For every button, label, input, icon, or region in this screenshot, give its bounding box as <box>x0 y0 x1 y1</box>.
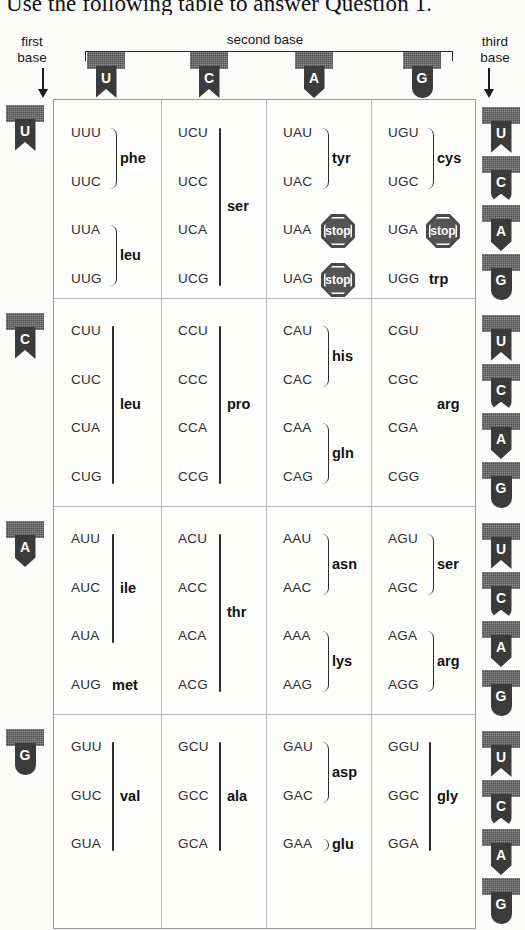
stop-codon-sign: stop <box>426 214 460 248</box>
down-arrow-icon <box>42 68 44 90</box>
codon-CAG: CAG <box>283 469 313 484</box>
first-base-marker-U: U <box>6 105 44 151</box>
ribbon-body: G <box>491 268 512 300</box>
codon-group-line <box>112 326 114 484</box>
ribbon-base-letter: A <box>496 432 506 446</box>
ribbon-body: C <box>491 586 512 618</box>
ribbon-base-letter: A <box>309 71 319 85</box>
third-base-marker-0-C: C <box>482 156 520 202</box>
third-base-marker-3-A: A <box>482 829 520 875</box>
codon-CGG: CGG <box>388 469 419 484</box>
ribbon-base-letter: G <box>496 481 507 495</box>
ribbon-base-letter: G <box>496 897 507 911</box>
codon-AUC: AUC <box>71 580 100 595</box>
ribbon-base-letter: A <box>496 224 506 238</box>
codon-GCU: GCU <box>178 739 209 754</box>
third-base-marker-1-G: G <box>482 462 520 508</box>
codon-UGC: UGC <box>388 174 419 189</box>
codon-group-brace <box>319 742 329 803</box>
codon-UUU: UUU <box>71 125 101 140</box>
amino-acid-val: val <box>120 788 140 804</box>
codon-UAA: UAA <box>283 222 311 237</box>
ribbon-base-letter: C <box>496 383 506 397</box>
codon-CCC: CCC <box>178 372 208 387</box>
codon-CAA: CAA <box>283 420 311 435</box>
third-base-marker-2-A: A <box>482 621 520 667</box>
stop-codon-sign: stop <box>321 214 355 248</box>
ribbon-body: G <box>412 66 433 98</box>
codon-CGA: CGA <box>388 420 418 435</box>
ribbon-body: C <box>491 170 512 202</box>
codon-group-line <box>112 534 114 643</box>
ribbon-body: A <box>304 66 325 98</box>
second-base-marker-A: A <box>295 52 333 98</box>
codon-group-brace <box>319 423 329 484</box>
ribbon-base-letter: U <box>496 542 506 556</box>
ribbon-base-letter: A <box>20 540 30 554</box>
ribbon-body: U <box>491 329 512 361</box>
third-base-label-line2: base <box>466 50 524 66</box>
ribbon-body: U <box>96 66 117 98</box>
codon-cell-GA: GAUGACGAAaspglu <box>266 714 371 930</box>
codon-UAG: UAG <box>283 271 313 286</box>
codon-cell-CA: CAUCACCAACAGhisgln <box>266 298 371 506</box>
ribbon-body: C <box>199 66 220 98</box>
first-base-marker-A: A <box>6 521 44 567</box>
codon-GAU: GAU <box>283 739 313 754</box>
third-base-marker-1-C: C <box>482 364 520 410</box>
stop-sign-inner: stop <box>324 217 352 245</box>
second-base-marker-U: U <box>87 52 125 98</box>
codon-GGA: GGA <box>388 836 419 851</box>
codon-AUA: AUA <box>71 628 99 643</box>
codon-GGU: GGU <box>388 739 419 754</box>
third-base-marker-2-C: C <box>482 572 520 618</box>
second-base-marker-G: G <box>403 52 441 98</box>
amino-acid-asn: asn <box>332 556 357 572</box>
ribbon-base-letter: G <box>417 71 428 85</box>
ribbon-body: A <box>491 635 512 667</box>
ribbon-base-letter: C <box>496 799 506 813</box>
codon-CUU: CUU <box>71 323 101 338</box>
codon-UCA: UCA <box>178 222 207 237</box>
amino-acid-arg: arg <box>437 653 460 669</box>
codon-UAU: UAU <box>283 125 312 140</box>
codon-cell-AG: AGUAGCAGAAGGserarg <box>371 506 477 714</box>
codon-cell-AU: AUUAUCAUAAUGilemet <box>54 506 161 714</box>
codon-group-brace <box>424 534 434 595</box>
ribbon-body: U <box>491 745 512 777</box>
down-arrow-icon <box>488 68 490 90</box>
codon-group-brace <box>107 225 117 286</box>
amino-acid-leu: leu <box>120 247 141 263</box>
codon-cell-CG: CGUCGCCGACGGarg <box>371 298 477 506</box>
ribbon-base-letter: G <box>20 748 31 762</box>
codon-cell-AA: AAUAACAAAAAGasnlys <box>266 506 371 714</box>
codon-UGG: UGG <box>388 271 419 286</box>
ribbon-base-letter: G <box>496 273 507 287</box>
third-base-marker-0-U: U <box>482 107 520 153</box>
ribbon-body: U <box>491 537 512 569</box>
amino-acid-ser: ser <box>437 556 459 572</box>
amino-acid-arg: arg <box>437 396 460 412</box>
codon-CCU: CCU <box>178 323 208 338</box>
codon-CGC: CGC <box>388 372 419 387</box>
codon-GCA: GCA <box>178 836 208 851</box>
ribbon-base-letter: C <box>20 332 30 346</box>
amino-acid-ser: ser <box>227 198 249 214</box>
codon-ACC: ACC <box>178 580 207 595</box>
amino-acid-met: met <box>112 677 138 693</box>
codon-AGA: AGA <box>388 628 417 643</box>
stop-label: stop <box>325 225 350 237</box>
codon-UGU: UGU <box>388 125 419 140</box>
codon-group-brace <box>319 534 329 595</box>
codon-UUG: UUG <box>71 271 102 286</box>
ribbon-body: C <box>491 794 512 826</box>
third-base-marker-2-U: U <box>482 523 520 569</box>
codon-group-line <box>219 326 221 484</box>
codon-table: UUUUUCUUAUUGpheleuUCUUCCUCAUCGserUAUUACU… <box>53 99 476 929</box>
ribbon-body: G <box>491 892 512 924</box>
amino-acid-pro: pro <box>227 396 250 412</box>
codon-AUU: AUU <box>71 531 100 546</box>
codon-GAC: GAC <box>283 788 313 803</box>
codon-group-brace <box>319 128 329 189</box>
amino-acid-leu: leu <box>120 396 141 412</box>
